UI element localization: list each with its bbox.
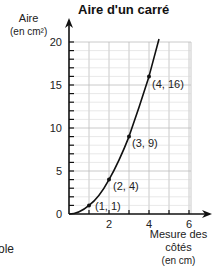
point-label-1-1: (1, 1) — [95, 200, 121, 212]
x-axis-title: Mesure des côtés — [150, 228, 207, 253]
x-axis-label: Mesure des côtés (en cm) — [140, 228, 217, 267]
x-axis-unit: (en cm) — [140, 254, 217, 267]
xtick-2: 2 — [106, 218, 112, 230]
cropped-text: ole — [0, 242, 14, 256]
ytick-5: 5 — [56, 165, 62, 177]
point-label-3-9: (3, 9) — [132, 137, 158, 149]
ytick-20: 20 — [50, 36, 62, 48]
ytick-10: 10 — [50, 122, 62, 134]
ytick-0: 0 — [56, 208, 62, 220]
ytick-15: 15 — [50, 79, 62, 91]
point-label-2-4: (2, 4) — [113, 180, 139, 192]
point-label-4-16: (4, 16) — [152, 78, 184, 90]
